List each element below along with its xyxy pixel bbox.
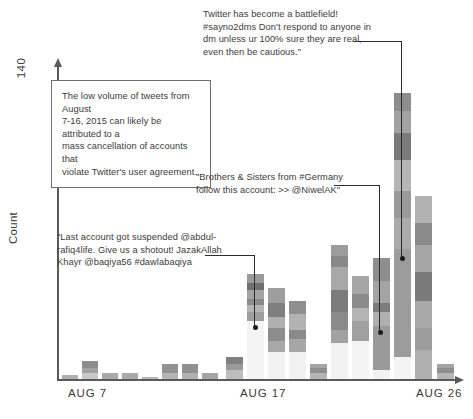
bar-segment (331, 312, 348, 330)
bar-segment (82, 373, 98, 380)
bar-segment (415, 272, 432, 301)
bar-segment (268, 341, 285, 352)
bar-segment (182, 364, 198, 373)
bar-aug-10[interactable] (122, 373, 138, 380)
bar-segment (352, 294, 369, 307)
bar-segment (373, 258, 390, 280)
bar-segment (415, 350, 432, 379)
bar-segment (415, 245, 432, 272)
bar-aug-24[interactable] (394, 93, 411, 379)
bar-segment (162, 364, 178, 373)
bar-segment (394, 249, 411, 356)
bar-aug-12[interactable] (162, 364, 178, 380)
leader-line-germany-v (379, 185, 380, 333)
bar-segment (247, 299, 264, 306)
bar-segment (182, 373, 198, 380)
bar-segment (268, 352, 285, 379)
bar-segment (247, 274, 264, 283)
bar-segment (289, 314, 306, 330)
bar-aug-25[interactable] (415, 196, 432, 379)
bar-segment (437, 373, 454, 380)
bar-aug-19[interactable] (289, 301, 306, 379)
annotation-suspended-line-3: Khayr @baqiya56 #dawlabaqiya (57, 256, 222, 269)
bar-segment (247, 312, 264, 321)
bar-segment (202, 373, 218, 380)
bar-aug-26[interactable] (437, 364, 454, 380)
bar-aug-9[interactable] (102, 373, 118, 380)
annotation-battlefield-line-4: even then be cautious." (203, 46, 371, 59)
bar-aug-23[interactable] (373, 258, 390, 379)
annotation-germany-line-1: "Brothers & Sisters from #Germany (196, 171, 343, 184)
bar-segment (247, 290, 264, 299)
annotation-low-volume-line-2: 7-16, 2015 can likely be attributed to a (62, 115, 201, 140)
bar-segment (310, 373, 327, 380)
leader-dot-germany (378, 330, 383, 335)
annotation-low-volume-line-3: mass cancellation of accounts that (62, 140, 201, 165)
bar-segment (415, 223, 432, 245)
bar-aug-21[interactable] (331, 245, 348, 379)
bar-aug-14[interactable] (202, 373, 218, 380)
annotation-battlefield-line-3: dm unless ur 100% sure they are real, (203, 33, 371, 46)
bar-aug-7[interactable] (62, 375, 78, 379)
leader-dot-top (400, 256, 405, 261)
bar-segment (82, 361, 98, 368)
bar-segment (102, 373, 118, 380)
bar-aug-8[interactable] (82, 361, 98, 379)
bar-aug-18[interactable] (268, 287, 285, 379)
annotation-suspended-line-2: rafiq4life. Give us a shotout! JazakAlla… (57, 244, 222, 257)
bar-segment (289, 330, 306, 339)
bar-segment (415, 328, 432, 350)
bar-segment (352, 276, 369, 294)
bar-segment (394, 357, 411, 379)
bar-segment (268, 317, 285, 328)
annotation-battlefield: Twitter has become a battlefield! #sayno… (203, 8, 371, 58)
bar-segment (415, 301, 432, 328)
bar-segment (352, 308, 369, 321)
bar-aug-20[interactable] (310, 364, 327, 380)
bar-segment (247, 305, 264, 312)
bar-aug-22[interactable] (352, 276, 369, 379)
annotation-germany-line-2: follow this account: >> @NiwelAK" (196, 184, 343, 197)
bar-segment (268, 288, 285, 304)
bar-segment (394, 218, 411, 249)
bar-segment (62, 375, 78, 379)
bar-segment (331, 290, 348, 312)
leader-line-top-v (401, 41, 402, 259)
bar-segment (331, 330, 348, 343)
bar-segment (394, 191, 411, 218)
chart-canvas: 140 Count AUG 7 AUG 17 AUG 26 Twitter ha… (0, 0, 473, 419)
bar-segment (373, 370, 390, 379)
bar-segment (226, 357, 243, 364)
leader-dot-suspended (253, 325, 258, 330)
bar-segment (415, 196, 432, 223)
bar-segment (331, 245, 348, 256)
bar-segment (289, 352, 306, 379)
bar-segment (268, 328, 285, 341)
bar-segment (289, 339, 306, 352)
annotation-suspended-line-1: "Last account got suspended @abdul- (57, 231, 222, 244)
bar-segment (122, 373, 138, 380)
bar-segment (394, 111, 411, 133)
bar-segment (331, 343, 348, 379)
bar-segment (394, 93, 411, 111)
bar-aug-16[interactable] (226, 357, 243, 379)
bar-aug-13[interactable] (182, 364, 198, 380)
bar-segment (226, 370, 243, 379)
bar-segment (142, 377, 158, 379)
annotation-low-volume-line-1: The low volume of tweets from August (62, 90, 201, 115)
bar-segment (247, 283, 264, 290)
bar-segment (268, 303, 285, 316)
bar-segment (226, 364, 243, 371)
bar-segment (394, 160, 411, 191)
bar-aug-11[interactable] (142, 377, 158, 379)
bar-segment (162, 373, 178, 380)
bar-segment (331, 256, 348, 267)
bar-segment (352, 341, 369, 379)
annotation-battlefield-line-1: Twitter has become a battlefield! (203, 8, 371, 21)
bar-segment (373, 312, 390, 325)
bar-segment (394, 133, 411, 160)
annotation-germany: "Brothers & Sisters from #Germany follow… (196, 171, 343, 196)
bar-segment (373, 281, 390, 303)
bar-segment (373, 303, 390, 312)
bar-segment (352, 321, 369, 341)
